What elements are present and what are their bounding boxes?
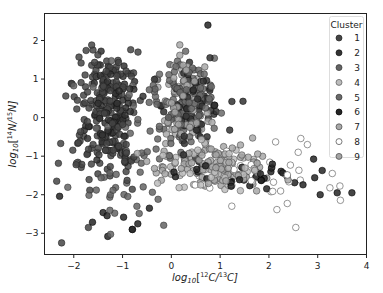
- data-point-cluster-3: [137, 169, 144, 176]
- legend-label: 1: [354, 33, 360, 43]
- data-point-cluster-8: [327, 185, 334, 192]
- data-point-cluster-5: [202, 105, 209, 112]
- legend-label: 8: [354, 137, 360, 147]
- data-point-cluster-3: [168, 140, 175, 147]
- legend-marker-icon: [336, 79, 342, 85]
- y-tick-label: 2: [33, 36, 39, 46]
- data-point-cluster-2: [200, 78, 207, 85]
- data-point-cluster-8: [298, 135, 305, 142]
- data-point-cluster-3: [107, 170, 114, 177]
- legend-label: 7: [354, 122, 360, 132]
- data-point-cluster-5: [201, 71, 208, 78]
- data-point-cluster-5: [156, 123, 163, 130]
- data-point-cluster-7: [223, 178, 230, 185]
- y-tick-label: 1: [33, 74, 39, 84]
- data-point-cluster-5: [218, 110, 225, 117]
- data-point-cluster-3: [135, 116, 142, 123]
- data-point-cluster-3: [65, 184, 72, 191]
- data-point-cluster-5: [166, 153, 173, 160]
- data-point-cluster-1: [129, 186, 136, 193]
- data-point-cluster-2: [121, 133, 128, 140]
- figure-background: [0, 0, 383, 293]
- data-point-cluster-3: [107, 231, 114, 238]
- legend-label: 4: [354, 78, 360, 88]
- data-point-cluster-7: [188, 160, 195, 167]
- data-point-cluster-1: [123, 150, 130, 157]
- data-point-cluster-1: [100, 83, 107, 90]
- data-point-cluster-1: [86, 176, 93, 183]
- scatter-figure: −2−101234 −3−2−1012 log10[12C/13C] log10…: [0, 0, 383, 293]
- data-point-cluster-3: [126, 92, 133, 99]
- data-point-cluster-1: [53, 178, 60, 185]
- y-tick-label: 0: [33, 113, 39, 123]
- data-point-cluster-1: [78, 60, 85, 67]
- legend-label: 6: [354, 107, 360, 117]
- data-point-cluster-8: [274, 206, 281, 213]
- data-point-cluster-7: [254, 151, 261, 158]
- data-point-cluster-1: [107, 98, 114, 105]
- data-point-cluster-6: [263, 186, 270, 193]
- data-point-cluster-4: [172, 159, 179, 166]
- data-point-cluster-5: [208, 83, 215, 90]
- data-point-cluster-3: [125, 193, 132, 200]
- data-point-cluster-2: [190, 87, 197, 94]
- data-point-cluster-8: [229, 203, 236, 210]
- data-point-cluster-8: [337, 183, 344, 190]
- data-point-cluster-6: [193, 166, 200, 173]
- data-point-cluster-2: [226, 127, 233, 134]
- data-point-cluster-3: [113, 171, 120, 178]
- data-point-cluster-2: [181, 133, 188, 140]
- data-point-cluster-1: [55, 160, 62, 167]
- x-tick-label: 2: [266, 261, 272, 271]
- data-point-cluster-1: [115, 143, 122, 150]
- data-point-cluster-2: [122, 112, 129, 119]
- data-point-cluster-3: [149, 189, 156, 196]
- data-point-cluster-2: [207, 55, 214, 62]
- data-point-cluster-1: [109, 120, 116, 127]
- data-point-cluster-3: [153, 146, 160, 153]
- data-point-cluster-1: [107, 87, 114, 94]
- data-point-cluster-6: [349, 190, 356, 197]
- data-point-cluster-9: [239, 152, 246, 159]
- data-point-cluster-3: [160, 222, 167, 229]
- data-point-cluster-2: [116, 88, 123, 95]
- data-point-cluster-4: [176, 184, 183, 191]
- x-tick-label: 4: [364, 261, 370, 271]
- data-point-cluster-3: [93, 187, 100, 194]
- legend-marker-icon: [336, 35, 342, 41]
- data-point-cluster-7: [249, 135, 256, 142]
- data-point-cluster-1: [123, 68, 130, 75]
- data-point-cluster-8: [293, 224, 300, 231]
- data-point-cluster-1: [84, 89, 91, 96]
- legend-label: 3: [354, 63, 360, 73]
- data-point-cluster-3: [196, 112, 203, 119]
- data-point-cluster-7: [187, 124, 194, 131]
- data-point-cluster-1: [127, 46, 134, 53]
- data-point-cluster-6: [258, 177, 265, 184]
- data-point-cluster-2: [96, 115, 103, 122]
- data-point-cluster-7: [202, 64, 209, 71]
- data-point-cluster-7: [171, 75, 178, 82]
- data-point-cluster-2: [140, 93, 147, 100]
- data-point-cluster-8: [277, 188, 284, 195]
- data-point-cluster-1: [88, 161, 95, 168]
- x-tick-label: −1: [116, 261, 129, 271]
- data-point-cluster-8: [269, 188, 276, 195]
- data-point-cluster-1: [78, 79, 85, 86]
- data-point-cluster-1: [107, 163, 114, 170]
- data-point-cluster-1: [95, 52, 102, 59]
- y-tick-label: −2: [25, 190, 38, 200]
- data-point-cluster-1: [115, 59, 122, 66]
- data-point-cluster-5: [156, 71, 163, 78]
- data-point-cluster-3: [93, 125, 100, 132]
- data-point-cluster-7: [168, 100, 175, 107]
- data-point-cluster-6: [311, 174, 318, 181]
- data-point-cluster-8: [272, 139, 279, 146]
- data-point-cluster-8: [296, 167, 303, 174]
- data-point-cluster-6: [171, 169, 178, 176]
- data-point-cluster-3: [144, 148, 151, 155]
- y-tick-label: −3: [25, 228, 38, 238]
- data-point-cluster-6: [228, 183, 235, 190]
- data-point-cluster-6: [310, 156, 317, 163]
- data-point-cluster-8: [287, 162, 294, 169]
